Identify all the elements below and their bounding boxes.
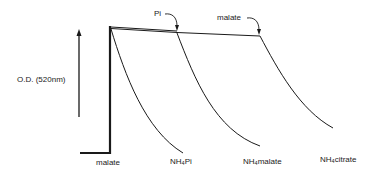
malate-annotation-arrow-icon (247, 18, 261, 35)
decay-curve-nh4malate (177, 33, 260, 146)
baseline-to-malate (111, 29, 260, 37)
annotation-pi: Pi (154, 9, 161, 18)
x-label-nh4pi: NH4Pi (170, 157, 192, 166)
pi-annotation-arrow-icon (165, 14, 179, 31)
x-label-malate: malate (96, 158, 120, 167)
x-label-nh4malate: NH4malate (243, 157, 282, 166)
y-axis-label: O.D. (520nm) (17, 75, 65, 84)
diagram-canvas (0, 0, 385, 179)
decay-curve-nh4citrate (260, 36, 333, 128)
annotation-malate: malate (217, 13, 241, 22)
initial-trace (80, 26, 110, 153)
y-axis-arrow-icon (77, 29, 82, 117)
x-label-nh4citrate: NH4citrate (320, 155, 356, 164)
decay-curve-nh4pi (111, 29, 183, 153)
